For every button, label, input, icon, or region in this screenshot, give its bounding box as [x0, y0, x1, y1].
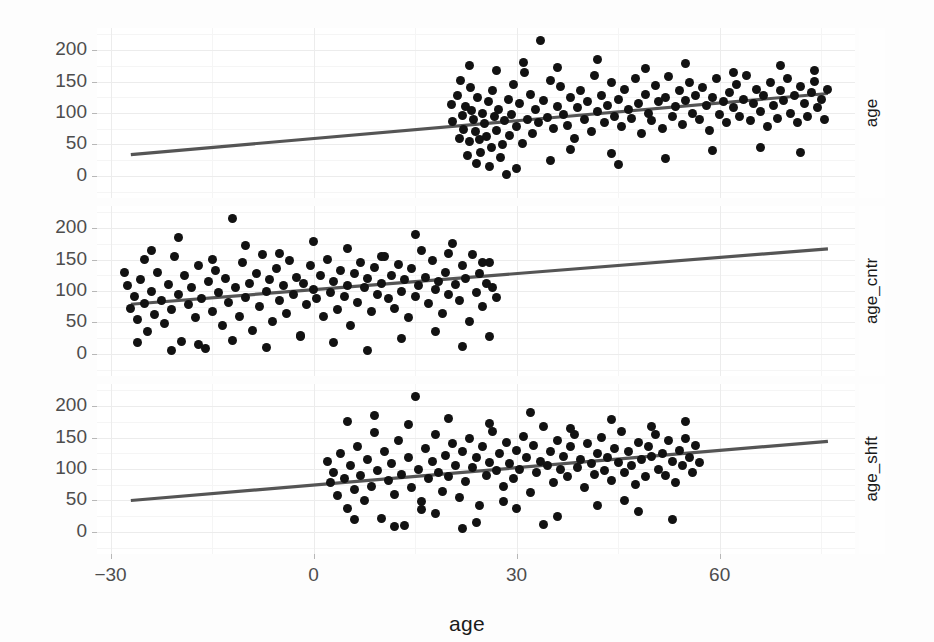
data-point	[241, 241, 250, 250]
data-point	[587, 127, 596, 136]
x-tick-mark	[517, 554, 518, 559]
data-point	[796, 82, 805, 91]
data-point	[265, 275, 274, 284]
data-point	[136, 275, 145, 284]
data-point	[241, 293, 250, 302]
data-point	[455, 134, 464, 143]
data-point	[722, 118, 731, 127]
data-point	[664, 72, 673, 81]
gridline-minor-horizontal	[97, 244, 855, 245]
y-tick-label: 0	[76, 520, 87, 542]
data-point	[583, 439, 592, 448]
y-tick-mark	[92, 176, 97, 177]
x-tick-label: −30	[71, 564, 151, 586]
gridline-major-vertical	[111, 384, 112, 554]
data-point	[473, 93, 482, 102]
facet-strip-label: age	[862, 99, 882, 127]
data-point	[580, 115, 589, 124]
data-point	[444, 249, 453, 258]
data-point	[472, 453, 481, 462]
data-point	[641, 64, 650, 73]
data-point	[566, 424, 575, 433]
data-point	[627, 114, 636, 123]
y-tick-mark	[92, 406, 97, 407]
data-point	[180, 271, 189, 280]
data-point	[370, 411, 379, 420]
x-tick-label: 30	[477, 564, 557, 586]
gridline-major-vertical	[111, 28, 112, 198]
data-point	[735, 112, 744, 121]
data-point	[793, 118, 802, 127]
data-point	[681, 417, 690, 426]
gridline-minor-horizontal	[97, 34, 855, 35]
data-point	[532, 468, 541, 477]
data-point	[607, 476, 616, 485]
data-point	[363, 274, 372, 283]
data-point	[323, 457, 332, 466]
data-point	[502, 170, 511, 179]
y-tick-mark	[92, 532, 97, 533]
data-point	[377, 279, 386, 288]
y-tick-mark	[92, 291, 97, 292]
data-point	[480, 119, 489, 128]
data-point	[658, 124, 667, 133]
data-point	[367, 482, 376, 491]
x-tick-label: 0	[274, 564, 354, 586]
y-tick-mark	[92, 500, 97, 501]
gridline-major-vertical	[314, 28, 315, 198]
data-point	[512, 504, 521, 513]
data-point	[431, 327, 440, 336]
y-tick-mark	[92, 260, 97, 261]
gridline-minor-horizontal	[97, 192, 855, 193]
data-point	[515, 99, 524, 108]
data-point	[448, 117, 457, 126]
data-point	[715, 110, 724, 119]
data-point	[459, 125, 468, 134]
data-point	[800, 99, 809, 108]
data-point	[262, 343, 271, 352]
data-point	[504, 95, 513, 104]
data-point	[807, 88, 816, 97]
data-point	[675, 86, 684, 95]
data-point	[397, 287, 406, 296]
data-point	[428, 256, 437, 265]
gridline-major-horizontal	[97, 50, 855, 51]
data-point	[668, 515, 677, 524]
data-point	[607, 415, 616, 424]
data-point	[593, 449, 602, 458]
data-point	[492, 466, 501, 475]
gridline-minor-horizontal	[97, 66, 855, 67]
data-point	[512, 446, 521, 455]
data-point	[681, 434, 690, 443]
data-point	[549, 124, 558, 133]
data-point	[214, 288, 223, 297]
data-point	[434, 468, 443, 477]
data-point	[157, 296, 166, 305]
x-tick-mark	[720, 554, 721, 559]
data-point	[563, 121, 572, 130]
data-point	[258, 250, 267, 259]
data-point	[323, 255, 332, 264]
data-point	[708, 93, 717, 102]
data-point	[466, 83, 475, 92]
data-point	[671, 478, 680, 487]
data-point	[404, 313, 413, 322]
data-point	[319, 312, 328, 321]
data-point	[593, 501, 602, 510]
data-point	[492, 66, 501, 75]
data-point	[353, 298, 362, 307]
data-point	[370, 263, 379, 272]
gridline-major-horizontal	[97, 354, 855, 355]
data-point	[576, 455, 585, 464]
data-point	[302, 300, 311, 309]
data-point	[559, 110, 568, 119]
data-point	[147, 287, 156, 296]
data-point	[556, 82, 565, 91]
data-point	[549, 478, 558, 487]
data-point	[434, 277, 443, 286]
data-point	[390, 522, 399, 531]
gridline-major-vertical	[720, 206, 721, 376]
data-point	[387, 459, 396, 468]
data-point	[455, 493, 464, 502]
data-point	[289, 290, 298, 299]
